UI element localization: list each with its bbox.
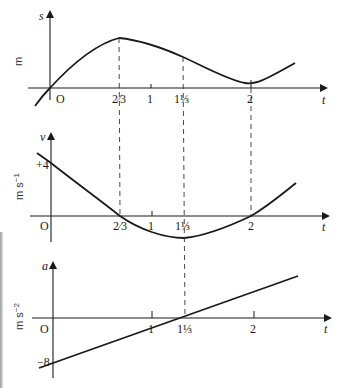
- tick-label-2-top: 2: [247, 92, 253, 106]
- tick-label-2-bottom: 2: [250, 322, 256, 336]
- displacement-curve: [35, 38, 295, 106]
- motion-graphs-diagram: s m O 2⁄3 1 1⅓ 2 t v m s−1 +4 O 2⁄3 1 1⅓…: [0, 0, 340, 388]
- v-axis-label: v: [40, 130, 46, 144]
- t-axis-label-top: t: [322, 93, 326, 107]
- tick-label-1-top: 1: [147, 92, 153, 106]
- s-unit-label: m: [12, 57, 24, 66]
- connector-two-thirds: [119, 38, 120, 216]
- origin-label-top: O: [56, 92, 65, 106]
- t-axis-label-bottom: t: [324, 322, 328, 336]
- velocity-curve: [37, 153, 296, 238]
- t-axis-label-middle: t: [322, 220, 326, 234]
- a-unit-label: m s−2: [12, 303, 25, 330]
- displacement-graph: s m O 2⁄3 1 1⅓ 2 t: [12, 9, 326, 107]
- v-unit-label: m s−1: [12, 173, 25, 200]
- svg-text:m s−2: m s−2: [12, 303, 25, 330]
- acceleration-line: [39, 276, 298, 368]
- a-axis-label: a: [42, 259, 48, 273]
- tick-label-four-thirds-middle: 1⅓: [175, 219, 190, 233]
- tick-label-four-thirds-top: 1⅓: [174, 92, 189, 106]
- tick-label-2-middle: 2: [248, 219, 254, 233]
- dashed-connectors: [119, 38, 251, 318]
- origin-label-bottom: O: [40, 322, 49, 336]
- acceleration-graph: a m s−2 O −8 1 1⅓ 2 t: [12, 259, 330, 378]
- svg-text:m s−1: m s−1: [12, 173, 25, 200]
- origin-label-middle: O: [40, 219, 49, 233]
- tick-label-two-thirds-middle: 2⁄3: [113, 219, 127, 233]
- s-axis-label: s: [39, 9, 44, 23]
- tick-label-four-thirds-bottom: 1⅓: [177, 322, 192, 336]
- velocity-graph: v m s−1 +4 O 2⁄3 1 1⅓ 2 t: [12, 130, 328, 242]
